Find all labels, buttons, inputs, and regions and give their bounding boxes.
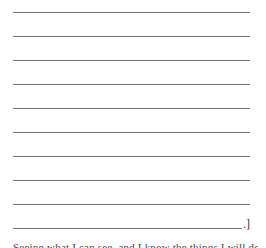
- ruled-line: [13, 228, 242, 229]
- ruled-line: [13, 108, 250, 109]
- ruled-line: [13, 12, 250, 13]
- ruled-line: [13, 84, 250, 85]
- ruled-line: [13, 156, 250, 157]
- clipped-caption-text: Seeing what I can see, and I know the th…: [13, 240, 258, 248]
- ruled-line: [13, 180, 250, 181]
- end-bracket-mark: .]: [243, 218, 250, 230]
- ruled-line: [13, 36, 250, 37]
- ruled-line: [13, 132, 250, 133]
- ruled-line: [13, 60, 250, 61]
- ruled-line: [13, 204, 250, 205]
